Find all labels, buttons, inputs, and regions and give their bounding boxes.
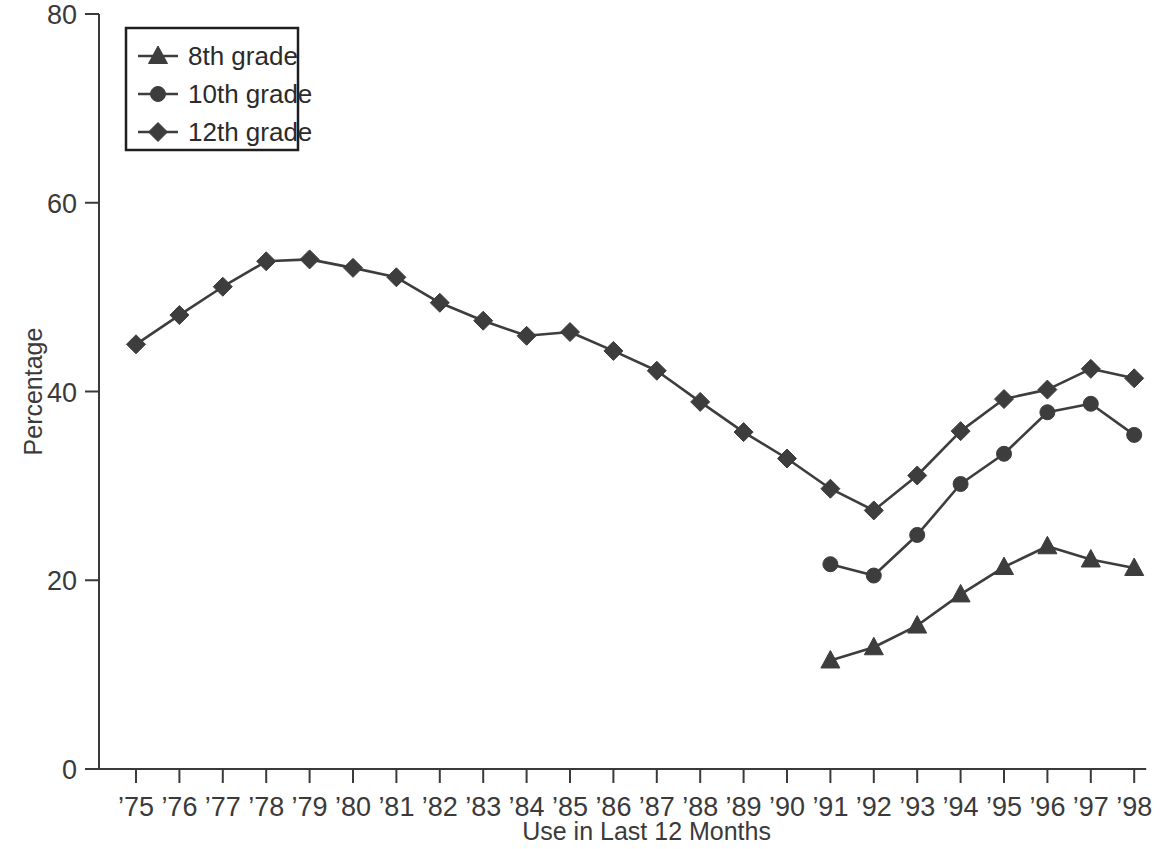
x-axis-tick-label: ’81 — [378, 792, 414, 822]
data-point-12th-grade — [213, 277, 232, 296]
x-axis-tick-label: ’82 — [422, 792, 458, 822]
data-point-12th-grade — [561, 323, 580, 342]
x-axis-tick-label: ’98 — [1116, 792, 1152, 822]
data-point-10th-grade — [823, 557, 838, 572]
data-point-12th-grade — [300, 250, 319, 269]
y-axis-tick-label: 0 — [62, 755, 77, 785]
data-point-12th-grade — [430, 293, 449, 312]
data-point-10th-grade — [866, 568, 881, 583]
data-point-8th-grade — [864, 637, 883, 655]
x-axis-tick-label: ’78 — [248, 792, 284, 822]
x-axis-tick-label: ’83 — [465, 792, 501, 822]
data-point-10th-grade — [910, 527, 925, 542]
data-point-10th-grade — [1127, 427, 1142, 442]
data-point-12th-grade — [170, 306, 189, 325]
x-axis-tick-label: ’94 — [943, 792, 979, 822]
legend-marker-circle-icon — [151, 87, 166, 102]
data-point-12th-grade — [647, 361, 666, 380]
x-axis-tick-label: ’76 — [161, 792, 197, 822]
data-point-12th-grade — [691, 392, 710, 411]
x-axis-tick-label: ’95 — [986, 792, 1022, 822]
data-point-10th-grade — [953, 476, 968, 491]
y-axis-tick-label: 20 — [47, 566, 77, 596]
y-axis-title: Percentage — [19, 328, 47, 456]
data-point-12th-grade — [1081, 359, 1100, 378]
x-axis-tick-label: ’90 — [769, 792, 805, 822]
x-axis-tick-label: ’92 — [856, 792, 892, 822]
data-point-12th-grade — [474, 311, 493, 330]
data-point-12th-grade — [778, 449, 797, 468]
data-point-8th-grade — [995, 557, 1014, 575]
data-point-8th-grade — [908, 616, 927, 634]
x-axis-tick-label: ’93 — [899, 792, 935, 822]
data-point-10th-grade — [997, 446, 1012, 461]
data-point-12th-grade — [821, 479, 840, 498]
legend-label: 12th grade — [188, 117, 312, 147]
data-point-12th-grade — [734, 423, 753, 442]
data-point-12th-grade — [1038, 380, 1057, 399]
legend-label: 8th grade — [188, 41, 298, 71]
chart-figure: 020406080’75’76’77’78’79’80’81’82’83’84’… — [0, 0, 1169, 849]
line-chart-canvas: 020406080’75’76’77’78’79’80’81’82’83’84’… — [0, 0, 1169, 849]
data-point-10th-grade — [1040, 405, 1055, 420]
data-point-8th-grade — [1038, 536, 1057, 554]
x-axis-tick-label: ’77 — [205, 792, 241, 822]
data-point-12th-grade — [517, 326, 536, 345]
y-axis-tick-label: 60 — [47, 189, 77, 219]
x-axis-tick-label: ’79 — [292, 792, 328, 822]
x-axis-title: Use in Last 12 Months — [522, 817, 771, 845]
data-point-12th-grade — [127, 335, 146, 354]
data-point-8th-grade — [951, 584, 970, 602]
data-point-12th-grade — [257, 252, 276, 271]
data-point-12th-grade — [604, 341, 623, 360]
y-axis-tick-label: 40 — [47, 378, 77, 408]
data-point-12th-grade — [995, 390, 1014, 409]
legend-label: 10th grade — [188, 79, 312, 109]
x-axis-tick-label: ’91 — [812, 792, 848, 822]
data-point-10th-grade — [1083, 396, 1098, 411]
y-axis-tick-label: 80 — [47, 0, 77, 30]
x-axis-tick-label: ’96 — [1029, 792, 1065, 822]
data-point-12th-grade — [1125, 369, 1144, 388]
series-line-12th-grade — [136, 259, 1134, 510]
x-axis-tick-label: ’97 — [1073, 792, 1109, 822]
data-point-12th-grade — [387, 268, 406, 287]
data-point-12th-grade — [344, 258, 363, 277]
x-axis-tick-label: ’80 — [335, 792, 371, 822]
series-line-10th-grade — [830, 404, 1134, 576]
x-axis-tick-label: ’75 — [118, 792, 154, 822]
